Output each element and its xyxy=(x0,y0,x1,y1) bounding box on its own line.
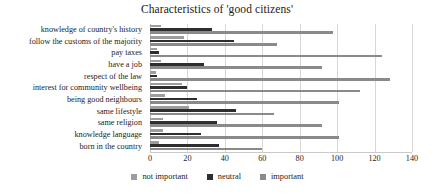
legend-item-not-important[interactable]: not important xyxy=(130,172,187,181)
chart-legend: not importantneutralimportant xyxy=(0,172,434,181)
y-axis-label-1: follow the customs of the majority xyxy=(29,37,142,46)
chart-title: Characteristics of 'good citizens' xyxy=(0,3,434,15)
bar-group xyxy=(150,129,412,141)
legend-item-important[interactable]: important xyxy=(259,172,304,181)
legend-swatch-icon xyxy=(206,173,214,181)
bar-neutral-8 xyxy=(150,121,217,124)
bar-not-important-7 xyxy=(150,106,189,109)
bar-not-important-8 xyxy=(150,118,163,121)
gridline-140 xyxy=(412,24,413,152)
y-axis-label-2: pay taxes xyxy=(111,48,142,57)
bar-neutral-9 xyxy=(150,133,201,136)
bar-neutral-0 xyxy=(150,28,212,31)
chart-container: Characteristics of 'good citizens' knowl… xyxy=(0,0,434,194)
bar-important-2 xyxy=(150,55,382,58)
bar-not-important-3 xyxy=(150,60,161,63)
y-axis-label-5: interest for community wellbeing xyxy=(33,83,142,92)
y-axis-category-labels: knowledge of country's historyfollow the… xyxy=(0,24,146,152)
bar-not-important-5 xyxy=(150,83,182,86)
x-tick-20: 20 xyxy=(183,154,191,163)
bar-neutral-6 xyxy=(150,98,197,101)
bar-neutral-2 xyxy=(150,51,159,54)
bar-group xyxy=(150,105,412,117)
legend-label: not important xyxy=(142,172,187,181)
bar-important-10 xyxy=(150,148,262,151)
x-tick-60: 60 xyxy=(258,154,266,163)
x-tick-80: 80 xyxy=(296,154,304,163)
x-tick-40: 40 xyxy=(221,154,229,163)
bar-neutral-3 xyxy=(150,63,204,66)
bar-important-1 xyxy=(150,43,277,46)
y-axis-label-0: knowledge of country's history xyxy=(41,25,142,34)
y-axis-label-4: respect of the law xyxy=(84,72,142,81)
legend-swatch-icon xyxy=(259,173,267,181)
bar-not-important-2 xyxy=(150,48,157,51)
y-axis-label-10: born in the country xyxy=(79,142,142,151)
bar-group xyxy=(150,71,412,83)
bar-group xyxy=(150,94,412,106)
bar-neutral-1 xyxy=(150,40,234,43)
bar-group xyxy=(150,140,412,152)
x-tick-100: 100 xyxy=(331,154,343,163)
y-axis-label-8: same religion xyxy=(98,118,142,127)
legend-swatch-icon xyxy=(130,173,138,181)
bar-important-3 xyxy=(150,66,322,69)
y-axis-label-3: have a job xyxy=(108,60,142,69)
bar-group xyxy=(150,47,412,59)
x-axis-tick-labels: 020406080100120140 xyxy=(0,154,434,166)
bar-important-5 xyxy=(150,90,360,93)
bar-group xyxy=(150,36,412,48)
x-tick-140: 140 xyxy=(406,154,418,163)
y-axis-label-7: same lifestyle xyxy=(97,107,142,116)
bar-group xyxy=(150,117,412,129)
bar-important-8 xyxy=(150,124,322,127)
bar-not-important-0 xyxy=(150,25,161,28)
bar-group xyxy=(150,82,412,94)
x-tick-0: 0 xyxy=(148,154,152,163)
bar-not-important-1 xyxy=(150,36,184,39)
bar-important-9 xyxy=(150,136,339,139)
bar-neutral-5 xyxy=(150,86,187,89)
bar-neutral-7 xyxy=(150,109,236,112)
bar-not-important-9 xyxy=(150,129,163,132)
bar-important-6 xyxy=(150,101,339,104)
legend-label: important xyxy=(271,172,304,181)
bar-group xyxy=(150,59,412,71)
x-axis-line xyxy=(150,152,412,153)
bar-important-7 xyxy=(150,113,274,116)
bar-neutral-4 xyxy=(150,75,157,78)
legend-label: neutral xyxy=(218,172,241,181)
y-axis-label-9: knowledge language xyxy=(74,130,142,139)
bar-not-important-4 xyxy=(150,71,156,74)
bar-not-important-10 xyxy=(150,141,159,144)
bar-group xyxy=(150,24,412,36)
legend-item-neutral[interactable]: neutral xyxy=(206,172,241,181)
bar-neutral-10 xyxy=(150,144,219,147)
bar-important-4 xyxy=(150,78,390,81)
bar-not-important-6 xyxy=(150,94,165,97)
x-tick-120: 120 xyxy=(368,154,380,163)
y-axis-label-6: being good neighbours xyxy=(67,95,142,104)
plot-area xyxy=(150,24,412,152)
bar-important-0 xyxy=(150,31,333,34)
